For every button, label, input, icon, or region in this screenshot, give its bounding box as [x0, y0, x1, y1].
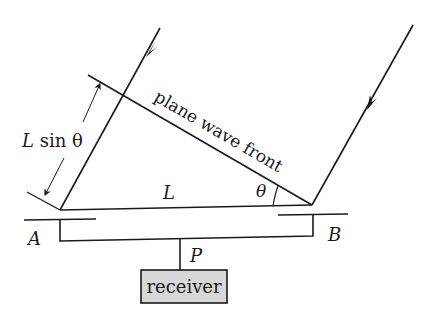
- angle-arc: [273, 186, 278, 206]
- antenna-a-label: A: [26, 228, 41, 249]
- wavefront-line: [88, 75, 312, 205]
- receiver-box: receiver: [141, 270, 227, 303]
- wavefront-label: plane wave front: [151, 86, 287, 176]
- antenna-b-plate: [278, 214, 348, 215]
- dimension-arrow-lower: [46, 158, 64, 193]
- baseline-label: L: [162, 182, 175, 203]
- junction-label: P: [189, 245, 203, 266]
- left-incident-ray: [60, 28, 160, 210]
- path-difference-rest: sin θ: [34, 130, 83, 151]
- path-difference-L: L: [21, 130, 34, 151]
- baseline-line: [60, 205, 312, 210]
- antenna-b-label: B: [327, 224, 341, 245]
- receiver-label: receiver: [146, 276, 222, 297]
- dimension-arrow-upper: [83, 86, 99, 122]
- dimension-tick: [27, 192, 60, 210]
- right-incident-ray: [312, 25, 413, 205]
- antenna-a-plate: [24, 219, 96, 220]
- angle-label: θ: [256, 181, 266, 201]
- interferometer-diagram: plane wave front L sin θ L θ A B P recei…: [0, 0, 433, 317]
- path-difference-label: L sin θ: [21, 130, 83, 151]
- feed-line: [60, 215, 313, 241]
